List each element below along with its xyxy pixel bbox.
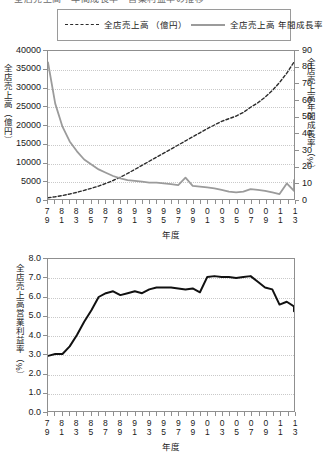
y-axis-tick-label: 40000: [0, 46, 41, 55]
dashed-line-swatch-icon: [65, 20, 99, 30]
y-axis-tick-label: 3.0: [0, 350, 41, 359]
x-axis-tick-label: 81: [56, 419, 67, 437]
x-axis-tickmark: [98, 412, 99, 416]
y-axis-tick-label: 25000: [0, 102, 41, 111]
x-axis-tick-label: 03: [217, 419, 228, 437]
legend: 全店売上高 （億円） 全店売上高 年間成長率: [57, 9, 291, 41]
x-axis-tick-label: 07: [246, 419, 257, 437]
x-axis-tick-label: 09: [260, 207, 271, 225]
chart-sales-growth: 全店売上高（億円） 050001000015000200002500030000…: [0, 44, 332, 249]
clipped-header-strip: 全店売上高・年間成長率・営業利益率の推移: [0, 0, 332, 7]
chart-operating-margin: 全店売上高営業利益率（%） 0.01.02.03.04.05.06.07.08.…: [0, 252, 332, 462]
y-axis-tick-label: 0: [0, 196, 41, 205]
x-axis-tick-label: 91: [129, 207, 140, 225]
chart2-series-layer: [48, 259, 294, 411]
x-axis-tickmark: [229, 200, 230, 204]
x-axis-tickmark: [62, 412, 63, 416]
x-axis-tickmark: [91, 412, 92, 416]
x-axis-tickmark: [200, 200, 201, 204]
chart2-x-axis-ticks: [47, 412, 295, 418]
legend-item-growth: 全店売上高 年間成長率: [187, 20, 322, 31]
y-axis-tick-label: 5.0: [0, 311, 41, 320]
x-axis-tickmark: [215, 412, 216, 416]
x-axis-tickmark: [164, 412, 165, 416]
y2-axis-tickmark: [295, 183, 299, 184]
x-axis-tick-label: 11: [275, 207, 286, 225]
y-axis-tick-label: 20000: [0, 121, 41, 130]
x-axis-tickmark: [295, 200, 296, 204]
x-axis-tickmark: [186, 200, 187, 204]
x-axis-tick-label: 83: [71, 207, 82, 225]
x-axis-tick-label: 95: [158, 419, 169, 437]
series-line: [48, 276, 294, 356]
y-axis-tick-label: 2.0: [0, 369, 41, 378]
x-axis-tickmark: [259, 200, 260, 204]
x-axis-tickmark: [69, 200, 70, 204]
x-axis-tickmark: [91, 200, 92, 204]
x-axis-tick-label: 87: [100, 419, 111, 437]
x-axis-tickmark: [83, 412, 84, 416]
x-axis-tickmark: [105, 200, 106, 204]
x-axis-tick-label: 85: [85, 207, 96, 225]
chart2-x-axis-title: 年度: [47, 440, 295, 452]
x-axis-tickmark: [222, 200, 223, 204]
x-axis-tickmark: [171, 412, 172, 416]
x-axis-tickmark: [259, 412, 260, 416]
x-axis-tickmark: [178, 412, 179, 416]
x-axis-tick-label: 85: [85, 419, 96, 437]
chart1-plot-area: [47, 50, 295, 200]
y2-axis-tick-label: 90: [302, 46, 312, 55]
x-axis-tickmark: [237, 412, 238, 416]
x-axis-tickmark: [280, 412, 281, 416]
y-axis-tick-label: 5000: [0, 177, 41, 186]
x-axis-tickmark: [244, 412, 245, 416]
x-axis-tickmark: [135, 412, 136, 416]
x-axis-tickmark: [156, 412, 157, 416]
x-axis-tick-label: 99: [187, 207, 198, 225]
x-axis-tickmark: [120, 200, 121, 204]
legend-item-sales: 全店売上高 （億円）: [58, 20, 187, 31]
solid-line-swatch-icon: [191, 20, 225, 30]
x-axis-tick-label: 97: [173, 419, 184, 437]
x-axis-tickmark: [193, 200, 194, 204]
legend-label-growth-line1: 全店売上高: [230, 20, 275, 30]
y2-axis-tick-label: 0: [302, 196, 307, 205]
x-axis-tick-label: 13: [290, 419, 301, 437]
x-axis-tickmark: [149, 412, 150, 416]
x-axis-tickmark: [288, 412, 289, 416]
x-axis-tickmark: [222, 412, 223, 416]
x-axis-tickmark: [47, 200, 48, 204]
x-axis-tickmark: [113, 200, 114, 204]
x-axis-tickmark: [149, 200, 150, 204]
clipped-header-text: 全店売上高・年間成長率・営業利益率の推移: [14, 0, 204, 5]
x-axis-tick-label: 05: [231, 419, 242, 437]
x-axis-tickmark: [186, 412, 187, 416]
x-axis-tick-label: 79: [42, 419, 53, 437]
x-axis-tickmark: [127, 412, 128, 416]
x-axis-tickmark: [120, 412, 121, 416]
x-axis-tick-label: 79: [42, 207, 53, 225]
x-axis-tickmark: [251, 200, 252, 204]
x-axis-tickmark: [69, 412, 70, 416]
x-axis-tickmark: [215, 200, 216, 204]
chart1-series-layer: [48, 51, 294, 199]
x-axis-tickmark: [142, 412, 143, 416]
x-axis-tickmark: [229, 412, 230, 416]
x-axis-tickmark: [266, 412, 267, 416]
x-axis-tickmark: [142, 200, 143, 204]
y-axis-tick-label: 30000: [0, 83, 41, 92]
legend-label-sales-line2: （億円）: [151, 20, 187, 30]
y-axis-tick-label: 8.0: [0, 254, 41, 263]
y-axis-tick-label: 15000: [0, 139, 41, 148]
series-line: [48, 62, 294, 198]
x-axis-tick-label: 01: [202, 419, 213, 437]
x-axis-tick-label: 07: [246, 207, 257, 225]
x-axis-tickmark: [288, 200, 289, 204]
x-axis-tick-label: 01: [202, 207, 213, 225]
x-axis-tick-label: 89: [114, 207, 125, 225]
x-axis-tickmark: [62, 200, 63, 204]
x-axis-tickmark: [207, 412, 208, 416]
y-axis-tick-label: 35000: [0, 64, 41, 73]
x-axis-tickmark: [244, 200, 245, 204]
x-axis-tickmark: [113, 412, 114, 416]
